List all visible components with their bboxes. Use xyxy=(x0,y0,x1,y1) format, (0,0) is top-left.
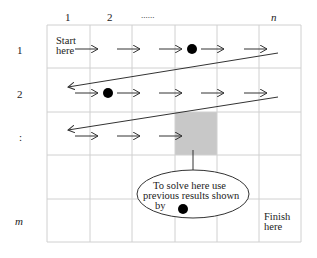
callout-line-3: by xyxy=(155,200,166,211)
dot-row1 xyxy=(187,44,197,54)
column-label-2: 2 xyxy=(107,11,113,23)
dot-row2 xyxy=(103,88,113,98)
finish-label: Finish here xyxy=(264,212,290,232)
row-label-2: 2 xyxy=(17,88,23,100)
row-label-1: 1 xyxy=(17,44,23,56)
highlighted-cell xyxy=(175,112,217,155)
column-label-n: n xyxy=(271,11,277,23)
callout-dot xyxy=(178,204,188,214)
return-line-2 xyxy=(68,97,278,130)
row-label-dots: : xyxy=(19,131,22,143)
return-line-1 xyxy=(68,53,278,87)
start-label: Start here xyxy=(56,36,76,56)
column-label-ellipsis: ...... xyxy=(141,9,155,21)
row-label-m: m xyxy=(15,215,23,227)
column-label-1: 1 xyxy=(65,11,71,23)
